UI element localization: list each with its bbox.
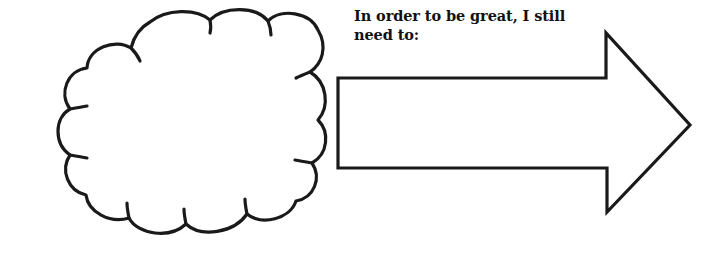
thought-cloud	[58, 10, 326, 234]
worksheet-canvas: In order to be great, I still need to:	[0, 0, 721, 253]
cloud-tail-top-mid	[210, 20, 211, 33]
cloud-outline	[58, 10, 326, 234]
prompt-heading: In order to be great, I still need to:	[354, 6, 594, 44]
right-arrow-outline	[338, 33, 690, 212]
